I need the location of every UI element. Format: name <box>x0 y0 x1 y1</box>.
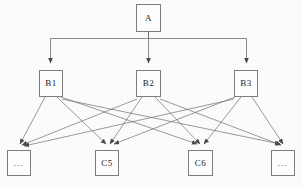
edge-a-to-b1 <box>51 32 149 63</box>
edge-b2-to-l1 <box>22 99 137 145</box>
node-c5[interactable]: C5 <box>95 150 119 176</box>
edge-group-middle-to-leaf <box>20 97 283 146</box>
edge-group-root-to-middle <box>51 32 247 63</box>
node-b3-label: B3 <box>240 79 251 88</box>
node-b2-label: B2 <box>143 79 154 88</box>
edge-a-to-b3 <box>149 32 247 63</box>
hierarchy-diagram: A B1 B2 B3 ... C5 C6 ... <box>0 0 302 188</box>
edge-b3-to-l1 <box>24 99 234 146</box>
edge-b3-to-l2 <box>252 97 283 144</box>
node-c6[interactable]: C6 <box>188 150 213 176</box>
edge-b2-to-l2 <box>160 99 281 145</box>
node-a-label: A <box>145 14 152 23</box>
node-leaf-ellipsis-left-label: ... <box>14 159 24 168</box>
node-b3[interactable]: B3 <box>234 70 258 97</box>
node-leaf-ellipsis-right-label: ... <box>278 159 288 168</box>
node-b1[interactable]: B1 <box>39 70 63 97</box>
node-leaf-ellipsis-left[interactable]: ... <box>7 150 31 176</box>
node-leaf-ellipsis-right[interactable]: ... <box>271 150 295 176</box>
node-c6-label: C6 <box>195 159 206 168</box>
node-c5-label: C5 <box>101 159 112 168</box>
node-b1-label: B1 <box>45 79 56 88</box>
node-b2[interactable]: B2 <box>136 70 161 97</box>
edge-b3-to-c6 <box>204 97 241 144</box>
node-a[interactable]: A <box>136 4 161 32</box>
